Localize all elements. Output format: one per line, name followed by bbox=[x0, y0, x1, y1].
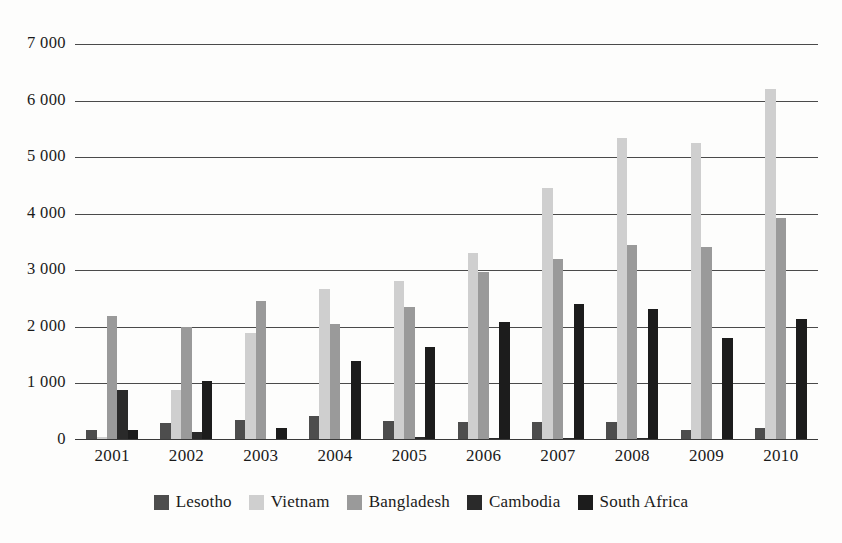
x-tick-label: 2010 bbox=[744, 446, 818, 466]
legend-item[interactable]: Bangladesh bbox=[347, 492, 450, 512]
plot-area bbox=[75, 44, 818, 440]
legend-swatch-icon bbox=[347, 495, 362, 510]
x-axis-line bbox=[75, 439, 818, 441]
legend-item[interactable]: Lesotho bbox=[154, 492, 232, 512]
bar bbox=[394, 281, 404, 440]
x-tick-label: 2005 bbox=[372, 446, 446, 466]
bar bbox=[574, 304, 584, 440]
bar bbox=[383, 421, 393, 440]
bar bbox=[458, 422, 468, 440]
bar bbox=[468, 253, 478, 440]
bar bbox=[309, 416, 319, 440]
bar bbox=[648, 309, 658, 440]
bar bbox=[765, 89, 775, 440]
chart-legend: LesothoVietnamBangladeshCambodiaSouth Af… bbox=[0, 492, 842, 512]
legend-swatch-icon bbox=[249, 495, 264, 510]
bar-group bbox=[755, 44, 807, 440]
bar bbox=[256, 301, 266, 440]
bar bbox=[776, 218, 786, 440]
bar bbox=[319, 289, 329, 440]
y-tick-label: 0 bbox=[57, 429, 66, 449]
bar bbox=[532, 422, 542, 440]
y-tick-label: 4 000 bbox=[27, 203, 66, 223]
bar-group bbox=[309, 44, 361, 440]
legend-label: Bangladesh bbox=[369, 492, 450, 512]
x-axis-tick-labels: 2001200220032004200520062007200820092010 bbox=[75, 446, 818, 474]
bar-group bbox=[86, 44, 138, 440]
y-tick-label: 3 000 bbox=[27, 259, 66, 279]
bar-group bbox=[458, 44, 510, 440]
bar bbox=[627, 245, 637, 440]
bar-group bbox=[383, 44, 435, 440]
x-tick-label: 2007 bbox=[521, 446, 595, 466]
bar bbox=[796, 319, 806, 440]
bars-layer bbox=[75, 44, 818, 440]
legend-label: South Africa bbox=[600, 492, 689, 512]
legend-swatch-icon bbox=[467, 495, 482, 510]
bar bbox=[117, 390, 127, 440]
bar bbox=[425, 347, 435, 440]
bar bbox=[107, 316, 117, 440]
legend-swatch-icon bbox=[578, 495, 593, 510]
legend-item[interactable]: Cambodia bbox=[467, 492, 560, 512]
bar bbox=[181, 327, 191, 440]
bar bbox=[617, 138, 627, 440]
y-tick-label: 1 000 bbox=[27, 372, 66, 392]
x-tick-label: 2003 bbox=[224, 446, 298, 466]
legend-item[interactable]: South Africa bbox=[578, 492, 689, 512]
bar-group bbox=[606, 44, 658, 440]
bar bbox=[160, 423, 170, 440]
x-tick-label: 2004 bbox=[298, 446, 372, 466]
chart-page: 01 0002 0003 0004 0005 0006 0007 000 200… bbox=[0, 0, 842, 543]
y-tick-label: 7 000 bbox=[27, 33, 66, 53]
bar bbox=[606, 422, 616, 440]
bar bbox=[404, 307, 414, 440]
bar-group bbox=[160, 44, 212, 440]
legend-label: Lesotho bbox=[176, 492, 232, 512]
bar bbox=[478, 272, 488, 440]
bar bbox=[722, 338, 732, 440]
legend-label: Vietnam bbox=[271, 492, 330, 512]
x-tick-label: 2001 bbox=[75, 446, 149, 466]
bar bbox=[171, 390, 181, 440]
bar bbox=[351, 361, 361, 440]
x-tick-label: 2008 bbox=[595, 446, 669, 466]
legend-item[interactable]: Vietnam bbox=[249, 492, 330, 512]
bar-group bbox=[532, 44, 584, 440]
y-tick-label: 2 000 bbox=[27, 316, 66, 336]
legend-label: Cambodia bbox=[489, 492, 560, 512]
y-tick-label: 5 000 bbox=[27, 146, 66, 166]
bar bbox=[542, 188, 552, 440]
bar bbox=[202, 381, 212, 440]
bar bbox=[499, 322, 509, 440]
bar bbox=[553, 259, 563, 440]
bar bbox=[701, 247, 711, 440]
bar-group bbox=[235, 44, 287, 440]
x-tick-label: 2009 bbox=[669, 446, 743, 466]
y-tick-label: 6 000 bbox=[27, 90, 66, 110]
y-axis-tick-labels: 01 0002 0003 0004 0005 0006 0007 000 bbox=[0, 0, 66, 543]
bar bbox=[691, 143, 701, 440]
x-tick-label: 2002 bbox=[149, 446, 223, 466]
bar bbox=[330, 324, 340, 440]
bar bbox=[245, 333, 255, 440]
x-tick-label: 2006 bbox=[447, 446, 521, 466]
bar bbox=[235, 420, 245, 440]
bar-group bbox=[681, 44, 733, 440]
legend-swatch-icon bbox=[154, 495, 169, 510]
